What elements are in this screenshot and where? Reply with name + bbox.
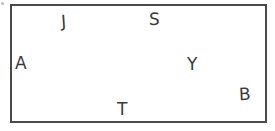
label-t: T [117,101,127,118]
rectangle-outline [11,5,266,122]
label-y: Y [187,56,197,73]
label-b: B [239,86,252,104]
label-s: S [149,11,160,28]
rectangle-svg [0,0,275,131]
label-a: A [15,55,27,72]
diagram-canvas: JSAYBT [0,0,275,131]
